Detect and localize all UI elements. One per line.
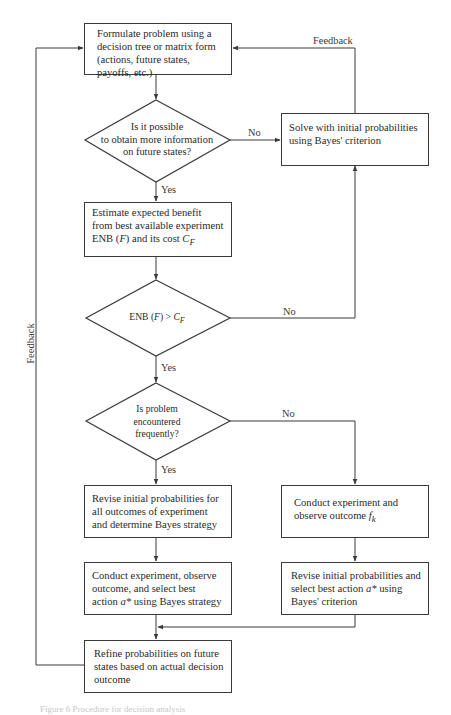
enb-mid: ) > [160, 311, 173, 322]
frequent-line-2: encountered [86, 416, 228, 429]
conduct-select-text-2: using Bayes strategy [131, 596, 221, 607]
frequent-line-1: Is problem [86, 403, 228, 416]
revise-select-var: a* [366, 583, 377, 594]
enb-cost-sub: F [180, 316, 185, 325]
decision-more-info-text: Is it possible to obtain more informatio… [86, 121, 228, 159]
decision-enb-text: ENB (F) > CF [86, 311, 228, 327]
label-yes-more-info: Yes [161, 184, 176, 196]
more-info-line-2: to obtain more information [86, 134, 228, 147]
revise-select-box: Revise initial probabilities and select … [281, 562, 429, 615]
formulate-problem-box: Formulate problem using a decision tree … [84, 23, 232, 75]
solve-initial-text: Solve with initial probabilities using B… [289, 121, 421, 147]
outcome-var-sub: k [372, 515, 376, 525]
arrow-feedback-right [233, 48, 355, 113]
label-yes-enb: Yes [161, 362, 176, 374]
label-no-more-info: No [248, 127, 261, 139]
decision-frequent-text: Is problem encountered frequently? [86, 403, 228, 441]
refine-probabilities-box: Refine probabilities on future states ba… [84, 640, 232, 693]
arrow-feedback-left [36, 48, 84, 665]
frequent-line-3: frequently? [86, 428, 228, 441]
formulate-problem-text: Formulate problem using a decision tree … [97, 28, 216, 78]
arrow-enb-no [230, 166, 355, 318]
label-feedback-left: Feedback [25, 320, 36, 368]
revise-all-outcomes-box: Revise initial probabilities for all out… [84, 485, 232, 538]
figure-caption: Figure 6 Procedure for decision analysis [40, 704, 185, 714]
revise-all-outcomes-text: Revise initial probabilities for all out… [92, 492, 224, 531]
conduct-observe-text: Conduct experiment and observe outcome [294, 497, 398, 521]
more-info-line-1: Is it possible [86, 121, 228, 134]
label-feedback-right: Feedback [313, 35, 353, 47]
conduct-select-var: a* [121, 596, 132, 607]
refine-probabilities-text: Refine probabilities on future states ba… [94, 647, 224, 686]
enb-text: ENB ( [129, 311, 154, 322]
label-no-enb: No [283, 306, 296, 318]
arrow-frequent-no [230, 421, 355, 484]
conduct-select-box: Conduct experiment, observe outcome, and… [84, 562, 232, 615]
estimate-text-2: ) and its cost [126, 233, 183, 244]
label-yes-frequent: Yes [161, 464, 176, 476]
estimate-benefit-box: Estimate expected benefit from best avai… [84, 202, 232, 257]
estimate-cost-sub: F [189, 237, 194, 247]
arrow-revise-select-join [158, 614, 355, 627]
more-info-line-3: on future states? [86, 146, 228, 159]
conduct-observe-box: Conduct experiment and observe outcome f… [281, 485, 429, 538]
label-no-frequent: No [282, 408, 295, 420]
solve-initial-box: Solve with initial probabilities using B… [281, 113, 429, 166]
